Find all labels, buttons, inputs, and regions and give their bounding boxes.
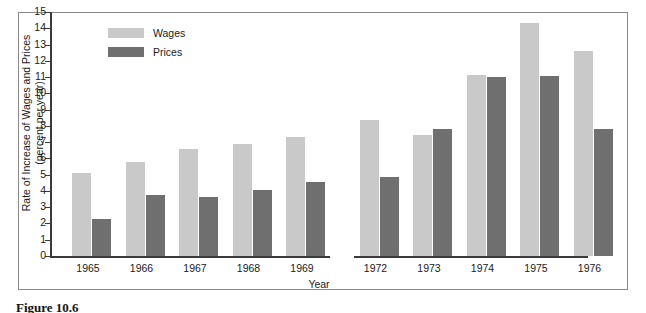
y-tick-9: 9 [50,110,51,111]
bar-wages-1969[interactable] [286,137,305,256]
bar-group-1967 [179,12,219,256]
bar-wages-1974[interactable] [467,75,486,256]
x-tick-label-1974: 1974 [459,262,507,274]
x-tick-label-1969: 1969 [278,262,326,274]
bar-prices-1966[interactable] [146,195,165,256]
bar-wages-1973[interactable] [413,135,432,256]
bar-wages-1967[interactable] [179,149,198,256]
y-tick-8: 8 [50,126,51,127]
x-axis-break-gap [330,256,354,259]
figure-root: Rate of Increase of Wages and Prices (pe… [0,0,646,313]
bar-prices-1975[interactable] [540,76,559,256]
x-tick-label-1973: 1973 [405,262,453,274]
x-tick-label-1965: 1965 [64,262,112,274]
y-tick-label: 11 [26,70,46,83]
y-tick-label: 15 [26,5,46,18]
y-tick-5: 5 [50,175,51,176]
y-tick-label: 0 [26,249,46,262]
y-tick-label: 12 [26,54,46,67]
y-tick-12: 12 [50,61,51,62]
y-tick-label: 8 [26,119,46,132]
y-tick-label: 3 [26,200,46,213]
bar-wages-1972[interactable] [360,120,379,256]
bar-group-1973 [413,12,453,256]
y-tick-label: 6 [26,151,46,164]
bar-wages-1965[interactable] [72,173,91,256]
y-tick-label: 13 [26,38,46,51]
bar-wages-1966[interactable] [126,162,145,256]
x-tick-label-1968: 1968 [225,262,273,274]
x-tick-label-1972: 1972 [352,262,400,274]
bar-group-1972 [360,12,400,256]
y-tick-15: 15 [50,12,51,13]
bar-group-1966 [126,12,166,256]
y-tick-label: 9 [26,103,46,116]
bar-prices-1974[interactable] [487,77,506,256]
bar-wages-1976[interactable] [574,51,593,256]
y-tick-0: 0 [50,256,51,257]
plot-area: 0123456789101112131415 WagesPrices 19651… [50,12,588,256]
y-tick-10: 10 [50,93,51,94]
y-tick-11: 11 [50,77,51,78]
x-tick-label-1967: 1967 [171,262,219,274]
y-tick-7: 7 [50,142,51,143]
bar-group-1969 [286,12,326,256]
bar-wages-1975[interactable] [520,23,539,256]
y-axis-line [50,12,52,256]
y-tick-13: 13 [50,45,51,46]
bar-prices-1972[interactable] [380,177,399,256]
y-tick-2: 2 [50,223,51,224]
y-tick-label: 2 [26,216,46,229]
bar-prices-1965[interactable] [92,219,111,256]
bar-prices-1976[interactable] [594,129,613,256]
x-axis-line [50,256,588,258]
y-tick-1: 1 [50,240,51,241]
y-tick-label: 1 [26,233,46,246]
y-tick-label: 4 [26,184,46,197]
figure-caption: Figure 10.6 [16,300,79,313]
bar-prices-1973[interactable] [433,129,452,256]
bar-group-1974 [467,12,507,256]
x-tick-label-1975: 1975 [512,262,560,274]
bar-group-1965 [72,12,112,256]
bar-group-1968 [233,12,273,256]
y-tick-6: 6 [50,158,51,159]
y-tick-label: 10 [26,86,46,99]
x-tick-label-1966: 1966 [118,262,166,274]
x-tick-label-1976: 1976 [566,262,614,274]
y-tick-label: 14 [26,21,46,34]
y-tick-4: 4 [50,191,51,192]
bar-prices-1968[interactable] [253,190,272,256]
bar-group-1975 [520,12,560,256]
y-tick-14: 14 [50,28,51,29]
bar-group-1976 [574,12,614,256]
bar-prices-1967[interactable] [199,197,218,256]
bar-prices-1969[interactable] [306,182,325,256]
bar-wages-1968[interactable] [233,144,252,256]
x-axis-title: Year [50,278,588,290]
y-tick-3: 3 [50,207,51,208]
y-tick-label: 7 [26,135,46,148]
y-tick-label: 5 [26,168,46,181]
